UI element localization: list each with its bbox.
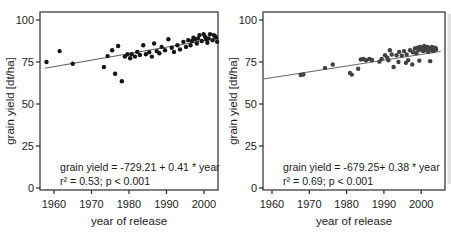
data-point [57, 49, 61, 53]
data-point [397, 50, 401, 54]
regression-equation: grain yield = -729.21 + 0.41 * year [60, 161, 220, 173]
y-axis-label: grain yield [dt/ha] [227, 57, 239, 145]
y-tick-label: 0 [28, 182, 34, 194]
data-point [184, 45, 188, 49]
x-tick-label: 1980 [334, 198, 358, 210]
y-tick-label: 0 [251, 182, 257, 194]
data-point [200, 39, 204, 43]
regression-equation: grain yield = -679.25+ 0.38 * year [283, 161, 440, 173]
data-point [386, 58, 390, 62]
data-point [178, 47, 182, 51]
y-tick-label: 100 [16, 14, 34, 26]
data-point [205, 40, 209, 44]
data-point [404, 52, 408, 56]
x-tick-label: 1990 [154, 198, 178, 210]
x-tick-label: 2000 [192, 198, 216, 210]
data-point [120, 79, 124, 83]
data-point [197, 33, 201, 37]
scan-artifact [448, 14, 451, 184]
data-point [406, 58, 410, 62]
x-tick-label: 1970 [297, 198, 321, 210]
data-point [133, 54, 137, 58]
y-tick-label: 100 [239, 14, 257, 26]
data-point [356, 67, 360, 71]
fit-statistics: r² = 0.53; p < 0.001 [60, 175, 150, 187]
x-tick-label: 1960 [260, 198, 284, 210]
y-tick-label: 50 [22, 98, 34, 110]
x-tick-label: 1960 [42, 198, 66, 210]
y-tick-label: 75 [245, 56, 257, 68]
y-tick-label: 25 [22, 140, 34, 152]
data-point [323, 66, 327, 70]
data-point [110, 48, 114, 52]
data-point [186, 38, 190, 42]
data-point [150, 54, 154, 58]
figure-scanned-scatter-plots: 196019701980199020000255075100 196019701… [0, 0, 451, 244]
data-point [166, 37, 170, 41]
data-point [175, 43, 179, 47]
data-point [181, 40, 185, 44]
data-point [396, 60, 400, 64]
data-point [157, 51, 161, 55]
x-axis-label: year of release [91, 215, 167, 227]
data-point [390, 52, 394, 56]
data-point [417, 58, 421, 62]
data-point [152, 41, 156, 45]
data-point [410, 62, 414, 66]
data-point [428, 59, 432, 63]
y-axis-label: grain yield [dt/ha] [4, 57, 16, 145]
data-point [113, 72, 117, 76]
data-point [170, 46, 174, 50]
y-tick-label: 25 [245, 140, 257, 152]
data-point [147, 50, 151, 54]
scatter-plots-svg: 196019701980199020000255075100 196019701… [0, 0, 451, 244]
data-point [188, 43, 192, 47]
x-tick-label: 2000 [409, 198, 433, 210]
data-point [370, 58, 374, 62]
x-tick-label: 1970 [79, 198, 103, 210]
data-point [400, 53, 404, 57]
data-point [138, 53, 142, 57]
data-point [116, 44, 120, 48]
x-tick-label: 1990 [372, 198, 396, 210]
data-point [214, 35, 218, 39]
data-point [208, 32, 212, 36]
x-tick-label: 1980 [117, 198, 141, 210]
data-point [350, 72, 354, 76]
data-point [71, 61, 75, 65]
data-point [128, 56, 132, 60]
data-point [388, 48, 392, 52]
data-point [391, 65, 395, 69]
data-point [195, 41, 199, 45]
data-point [159, 45, 163, 49]
fit-statistics: r² = 0.69; p < 0.001 [283, 175, 373, 187]
data-point [141, 43, 145, 47]
y-tick-label: 75 [22, 56, 34, 68]
data-point [331, 62, 335, 66]
data-point [301, 72, 305, 76]
data-point [215, 40, 219, 44]
data-point [105, 54, 109, 58]
data-point [172, 50, 176, 54]
data-point [125, 52, 129, 56]
data-point [206, 36, 210, 40]
x-axis-label: year of release [316, 215, 392, 227]
data-point [434, 47, 438, 51]
y-tick-label: 50 [245, 98, 257, 110]
data-point [44, 60, 48, 64]
left-plot: year of release grain yield [dt/ha] grai… [4, 57, 220, 227]
data-point [102, 65, 106, 69]
data-point [379, 57, 383, 61]
data-point [163, 48, 167, 52]
